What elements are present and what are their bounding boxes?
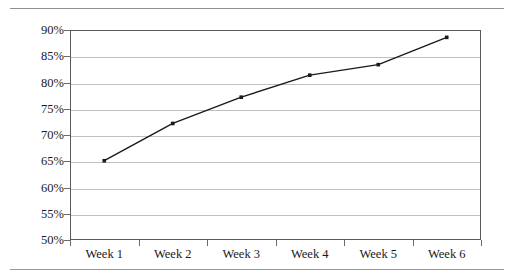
y-axis-tick: [64, 30, 70, 31]
y-axis-label: 50%: [0, 233, 64, 248]
y-axis-label: 80%: [0, 75, 64, 90]
y-axis-label: 65%: [0, 154, 64, 169]
gridline: [71, 215, 480, 216]
x-axis-tick: [276, 240, 277, 246]
y-axis-tick: [64, 214, 70, 215]
y-axis-tick: [64, 161, 70, 162]
y-axis-tick: [64, 56, 70, 57]
y-axis-tick: [64, 83, 70, 84]
y-axis-label: 75%: [0, 101, 64, 116]
y-axis-label: 55%: [0, 206, 64, 221]
gridline: [71, 162, 480, 163]
gridline: [71, 136, 480, 137]
x-axis-tick: [70, 240, 71, 246]
y-axis-label: 90%: [0, 23, 64, 38]
x-axis-label: Week 1: [85, 247, 123, 262]
x-axis-label: Week 4: [291, 247, 329, 262]
gridline: [71, 189, 480, 190]
x-axis-label: Week 6: [428, 247, 466, 262]
y-axis-tick: [64, 109, 70, 110]
gridline: [71, 110, 480, 111]
x-axis-label: Week 2: [154, 247, 192, 262]
plot-area: [70, 30, 481, 240]
line-chart: 50%55%60%65%70%75%80%85%90% Week 1Week 2…: [0, 0, 512, 277]
x-axis-tick: [139, 240, 140, 246]
x-axis-tick: [481, 240, 482, 246]
y-axis-tick: [64, 135, 70, 136]
x-axis-tick: [344, 240, 345, 246]
x-axis-label: Week 3: [222, 247, 260, 262]
y-axis-label: 85%: [0, 49, 64, 64]
x-axis-tick: [413, 240, 414, 246]
y-axis-label: 70%: [0, 128, 64, 143]
x-axis-label: Week 5: [359, 247, 397, 262]
page-root: 50%55%60%65%70%75%80%85%90% Week 1Week 2…: [0, 0, 512, 277]
y-axis-tick: [64, 188, 70, 189]
gridline: [71, 57, 480, 58]
x-axis-tick: [207, 240, 208, 246]
y-axis-label: 60%: [0, 180, 64, 195]
gridline: [71, 84, 480, 85]
